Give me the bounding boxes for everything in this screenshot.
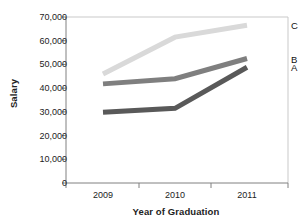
y-tick-label: 20,000 bbox=[39, 131, 67, 141]
y-tick-label: 10,000 bbox=[39, 154, 67, 164]
y-tick-label: 30,000 bbox=[39, 107, 67, 117]
x-tick-label: 2010 bbox=[165, 190, 185, 200]
y-tick-label: 60,000 bbox=[39, 36, 67, 46]
series-label-c: C bbox=[291, 20, 298, 31]
x-tick-label: 2009 bbox=[93, 190, 113, 200]
y-tick-label: 70,000 bbox=[39, 12, 67, 22]
y-tick-label: 50,000 bbox=[39, 59, 67, 69]
series-line-a bbox=[103, 67, 247, 112]
y-tick-label: 0 bbox=[62, 178, 67, 188]
x-tick-label: 2011 bbox=[237, 190, 256, 200]
series-label-a: A bbox=[291, 62, 297, 73]
y-tick-label: 40,000 bbox=[39, 83, 67, 93]
line-chart: Salary Year of Graduation 010,00020,0003… bbox=[0, 0, 300, 224]
